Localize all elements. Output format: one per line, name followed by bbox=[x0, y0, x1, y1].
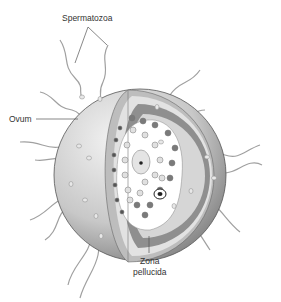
label-zona-line2: pellucida bbox=[133, 267, 167, 277]
label-spermatozoa: Spermatozoa bbox=[62, 13, 113, 23]
label-ovum: Ovum bbox=[9, 114, 32, 124]
label-zona-line1: Zona bbox=[140, 256, 159, 266]
nucleolus bbox=[139, 161, 143, 165]
